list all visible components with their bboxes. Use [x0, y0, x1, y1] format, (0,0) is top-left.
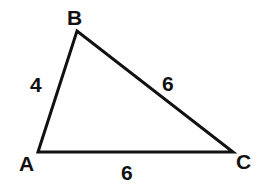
triangle-diagram: B A C 4 6 6 [0, 0, 270, 196]
vertex-label-c: C [236, 150, 251, 173]
side-label-ab: 4 [30, 73, 42, 96]
vertex-label-b: B [67, 6, 82, 29]
side-label-ac: 6 [121, 161, 133, 184]
triangle-abc [38, 31, 233, 152]
vertex-label-a: A [19, 152, 34, 175]
side-label-bc: 6 [162, 72, 174, 95]
